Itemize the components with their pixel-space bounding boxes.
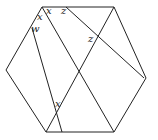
diagonal-topleft-to-bottomright: [42, 7, 114, 132]
hexagon-diagram: x x z w z x: [0, 0, 158, 140]
label-z-middle: z: [87, 33, 94, 44]
label-x-left: x: [37, 11, 43, 22]
label-x-bottom: x: [55, 98, 61, 109]
label-z-top: z: [60, 5, 67, 16]
label-w: w: [31, 23, 40, 34]
label-x-top: x: [46, 5, 52, 16]
hexagon-outline: [6, 7, 146, 132]
line-top-z-to-right: [66, 7, 144, 78]
